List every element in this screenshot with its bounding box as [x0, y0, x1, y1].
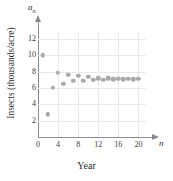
data-point: [116, 76, 120, 80]
x-axis-tick-label: 8: [71, 141, 85, 149]
gridline-vertical: [98, 31, 99, 137]
gridline-horizontal: [38, 121, 146, 122]
scatter-chart-figure: an 24681012 048121620 n Year Insects (th…: [0, 0, 173, 181]
gridline-vertical: [78, 31, 79, 137]
data-point: [131, 77, 135, 81]
data-point: [111, 77, 115, 81]
x-axis-title: Year: [0, 160, 173, 171]
gridline-vertical: [58, 31, 59, 137]
gridline-vertical: [118, 31, 119, 137]
x-axis-arrow-icon: [152, 134, 159, 140]
data-point: [121, 77, 125, 81]
y-axis-tick-label: 6: [32, 84, 36, 92]
data-point: [86, 74, 90, 78]
y-axis-tick-label: 10: [28, 51, 36, 59]
y-axis-tick-labels: 24681012: [20, 0, 36, 181]
x-axis-tick-label: 20: [131, 141, 145, 149]
data-point: [96, 76, 100, 80]
x-axis-tick-label: 4: [51, 141, 65, 149]
data-point: [51, 86, 55, 90]
data-point: [71, 79, 75, 83]
y-axis-tick-label: 8: [32, 68, 36, 76]
data-point: [41, 53, 45, 57]
x-axis-tick-label: 12: [91, 141, 105, 149]
data-point: [66, 73, 70, 77]
data-point: [81, 79, 85, 83]
data-point: [76, 74, 80, 78]
gridline-vertical: [138, 31, 139, 137]
data-point: [126, 76, 130, 80]
data-point: [91, 78, 95, 82]
y-axis-tick-label: 2: [32, 117, 36, 125]
x-axis-symbol: n: [159, 138, 164, 148]
data-point: [46, 112, 50, 116]
data-point: [101, 77, 105, 81]
y-axis-title: Insects (thousands/acre): [6, 18, 16, 128]
x-axis-line: [38, 137, 154, 138]
data-point: [61, 82, 65, 86]
data-point: [106, 76, 110, 80]
x-axis-tick-labels: 048121620: [0, 141, 173, 153]
gridline-horizontal: [38, 55, 146, 56]
data-point: [56, 70, 60, 74]
x-axis-tick-label: 16: [111, 141, 125, 149]
y-axis-tick-label: 4: [32, 100, 36, 108]
y-axis-tick-label: 12: [28, 35, 36, 43]
gridline-horizontal: [38, 39, 146, 40]
x-axis-tick-label: 0: [31, 141, 45, 149]
gridline-horizontal: [38, 104, 146, 105]
plot-area: [38, 31, 146, 137]
data-point: [136, 76, 140, 80]
gridline-horizontal: [38, 72, 146, 73]
